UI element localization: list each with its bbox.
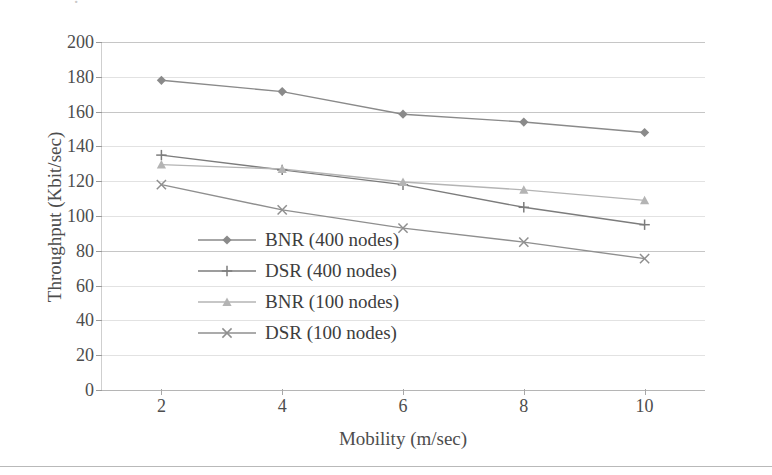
y-tick-mark — [96, 181, 102, 182]
bottom-divider — [0, 466, 772, 467]
legend-label: DSR (400 nodes) — [265, 260, 397, 282]
legend-label: BNR (100 nodes) — [265, 291, 399, 313]
y-tick-label: 0 — [38, 381, 94, 399]
x-axis-title: Mobility (m/sec) — [101, 428, 705, 450]
y-tick-mark — [96, 251, 102, 252]
x-tick-mark — [282, 389, 283, 395]
legend-item[interactable]: DSR (400 nodes) — [196, 255, 466, 286]
x-tick-label: 6 — [373, 396, 433, 417]
y-tick-label: 160 — [38, 103, 94, 121]
y-tick-mark — [96, 286, 102, 287]
y-tick-mark — [96, 42, 102, 43]
y-tick-label: 140 — [38, 137, 94, 155]
y-tick-label: 180 — [38, 68, 94, 86]
scan-artifact-glyph: · — [73, 0, 79, 13]
marker-plus — [222, 265, 232, 275]
marker-plus — [519, 202, 529, 212]
chart-legend: BNR (400 nodes)DSR (400 nodes)BNR (100 n… — [196, 224, 466, 348]
x-tick-label: 10 — [615, 396, 675, 417]
y-tick-label: 80 — [38, 242, 94, 260]
x-tick-mark — [645, 389, 646, 395]
y-tick-label: 200 — [38, 33, 94, 51]
legend-swatch-icon — [196, 294, 258, 310]
y-tick-mark — [96, 390, 102, 391]
legend-swatch-icon — [196, 325, 258, 341]
x-tick-label: 4 — [252, 396, 312, 417]
y-tick-mark — [96, 112, 102, 113]
y-tick-mark — [96, 355, 102, 356]
y-tick-label: 100 — [38, 207, 94, 225]
y-tick-label: 40 — [38, 311, 94, 329]
marker-diamond — [157, 76, 166, 85]
y-tick-label: 120 — [38, 172, 94, 190]
legend-swatch — [196, 232, 258, 248]
legend-label: DSR (100 nodes) — [265, 322, 397, 344]
figure-container: · Throughput (Kbit/sec) 0204060801001201… — [0, 0, 772, 475]
series-line-0 — [161, 80, 644, 132]
x-axis-tick-labels: 246810 — [101, 396, 705, 424]
y-tick-mark — [96, 77, 102, 78]
marker-diamond — [519, 117, 528, 126]
legend-swatch-icon — [196, 263, 258, 279]
legend-swatch — [196, 294, 258, 310]
x-tick-label: 2 — [131, 396, 191, 417]
y-tick-mark — [96, 320, 102, 321]
legend-swatch — [196, 263, 258, 279]
x-tick-mark — [524, 389, 525, 395]
marker-diamond — [640, 128, 649, 137]
y-axis-tick-labels: 020406080100120140160180200 — [38, 30, 94, 402]
marker-diamond — [278, 87, 287, 96]
y-tick-mark — [96, 146, 102, 147]
x-tick-label: 8 — [494, 396, 554, 417]
marker-plus — [639, 220, 649, 230]
y-tick-mark — [96, 216, 102, 217]
marker-diamond — [222, 235, 231, 244]
legend-item[interactable]: BNR (400 nodes) — [196, 224, 466, 255]
legend-swatch-icon — [196, 232, 258, 248]
x-tick-mark — [161, 389, 162, 395]
marker-plus — [156, 150, 166, 160]
x-tick-mark — [403, 389, 404, 395]
series-line-1 — [161, 155, 644, 225]
legend-item[interactable]: DSR (100 nodes) — [196, 317, 466, 348]
legend-item[interactable]: BNR (100 nodes) — [196, 286, 466, 317]
legend-label: BNR (400 nodes) — [265, 229, 399, 251]
marker-diamond — [398, 110, 407, 119]
legend-swatch — [196, 325, 258, 341]
y-tick-label: 60 — [38, 277, 94, 295]
y-tick-label: 20 — [38, 346, 94, 364]
